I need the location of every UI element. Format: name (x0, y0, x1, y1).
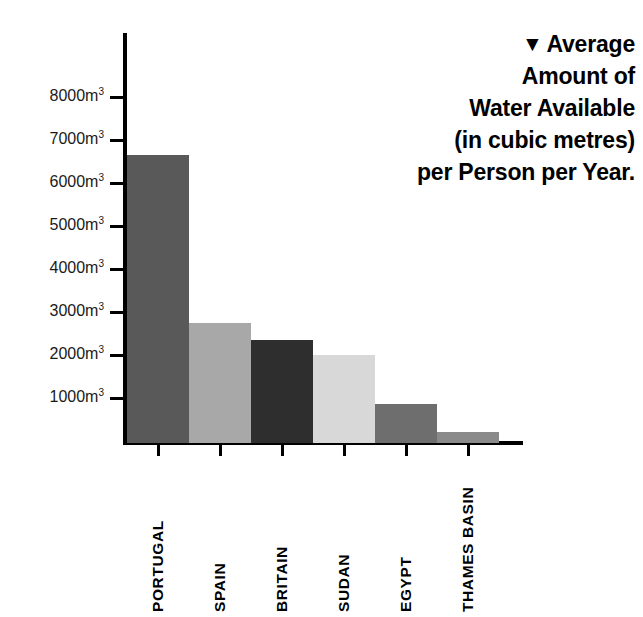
category-label-egypt: EGYPT (398, 452, 413, 612)
y-axis-tick (110, 225, 126, 228)
category-label-thames-basin: THAMES BASIN (460, 452, 475, 612)
category-label-spain: SPAIN (212, 452, 227, 612)
y-axis-tick-label: 3000m3 (18, 303, 104, 319)
y-axis-tick (110, 397, 126, 400)
bar-chart: ▼Average Amount of Water Available (in c… (0, 0, 643, 617)
bar-sudan[interactable] (313, 355, 375, 443)
y-axis-tick-label: 7000m3 (18, 131, 104, 147)
y-axis-tick (110, 354, 126, 357)
y-axis-tick (110, 182, 126, 185)
y-axis-tick (110, 311, 126, 314)
category-label-sudan: SUDAN (336, 452, 351, 612)
y-axis-tick-label: 2000m3 (18, 346, 104, 362)
y-axis-tick-label: 6000m3 (18, 174, 104, 190)
y-axis-tick (110, 96, 126, 99)
bar-spain[interactable] (189, 323, 251, 443)
y-axis-tick (110, 139, 126, 142)
y-axis-tick-label: 1000m3 (18, 389, 104, 405)
chart-title-text-1: Average (546, 31, 635, 57)
y-axis-tick-label: 5000m3 (18, 217, 104, 233)
plot-area (127, 33, 527, 443)
bar-portugal[interactable] (127, 155, 189, 443)
bar-egypt[interactable] (375, 404, 437, 443)
category-label-portugal: PORTUGAL (150, 452, 165, 612)
bar-britain[interactable] (251, 340, 313, 443)
y-axis-tick (110, 268, 126, 271)
category-label-britain: BRITAIN (274, 452, 289, 612)
y-axis-tick-label: 4000m3 (18, 260, 104, 276)
bar-thames-basin[interactable] (437, 432, 499, 443)
y-axis-tick-label: 8000m3 (18, 88, 104, 104)
